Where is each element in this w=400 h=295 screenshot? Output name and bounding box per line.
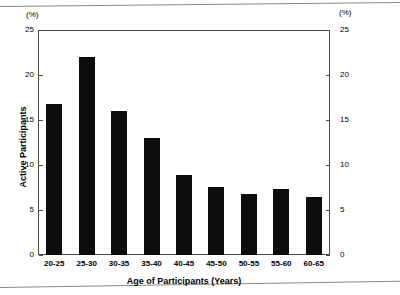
- right-tick-label: 25: [340, 26, 358, 34]
- bars-layer: [38, 30, 330, 255]
- right-tick-label: 5: [340, 206, 358, 214]
- bar: [273, 189, 289, 255]
- right-tick-label: 10: [340, 161, 358, 169]
- x-axis-title: Age of Participants (Years): [38, 276, 330, 286]
- bar: [208, 187, 224, 255]
- bar: [144, 138, 160, 255]
- left-tick-label: 20: [16, 71, 34, 79]
- bar: [111, 111, 127, 255]
- bar: [79, 57, 95, 255]
- right-axis-unit-label: (%): [339, 8, 351, 17]
- left-axis-unit-label: (%): [26, 10, 38, 19]
- right-tick-mark: [326, 255, 330, 256]
- left-tick-label: 5: [16, 206, 34, 214]
- right-tick-label: 20: [340, 71, 358, 79]
- y-axis-title: Active Participants: [18, 87, 28, 207]
- bar: [241, 194, 257, 255]
- x-tick-label: 60-65: [294, 259, 334, 268]
- left-tick-mark: [39, 255, 43, 256]
- left-tick-label: 0: [16, 251, 34, 259]
- bar: [306, 197, 322, 255]
- left-tick-label: 25: [16, 26, 34, 34]
- bar: [176, 175, 192, 255]
- right-tick-label: 0: [340, 251, 358, 259]
- right-tick-label: 15: [340, 116, 358, 124]
- scan-artifact-line-top: [0, 2, 400, 7]
- bar: [46, 104, 62, 255]
